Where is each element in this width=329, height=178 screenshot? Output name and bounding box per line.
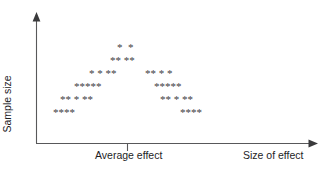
data-row-level-2: ** ** — [110, 55, 135, 66]
y-axis-label: Sample size — [2, 75, 14, 132]
data-row-level-4-left: ***** — [74, 81, 102, 92]
data-row-level-3-left: * * ** — [89, 68, 117, 79]
y-axis-arrowhead-icon — [33, 12, 41, 22]
x-axis-average-effect-label: Average effect — [95, 150, 162, 162]
data-row-level-5-right: ** * ** — [160, 94, 193, 105]
data-row-level-5-left: ** * ** — [60, 94, 93, 105]
data-row-level-3-right: ** * * — [145, 68, 173, 79]
data-row-level-4-right: ***** — [154, 81, 182, 92]
x-axis-label: Size of effect — [243, 150, 304, 162]
data-row-level-6-right: **** — [180, 107, 202, 118]
data-row-level-6-left: **** — [53, 107, 75, 118]
data-row-level-1: * * — [117, 42, 134, 53]
funnel-plot-figure: * * ** ** * * ** ** * * ***** ***** ** *… — [0, 0, 329, 178]
x-axis-arrowhead-icon — [309, 140, 319, 148]
